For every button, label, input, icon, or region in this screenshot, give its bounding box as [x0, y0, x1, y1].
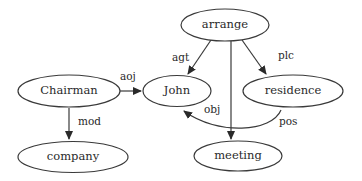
- edge-label-obj: obj: [204, 103, 220, 115]
- edge-label-agt: agt: [172, 51, 190, 63]
- node-chairman: Chairman: [18, 75, 120, 107]
- node-company: company: [18, 142, 128, 173]
- edge-plc-arrow: [242, 40, 266, 74]
- edge-label-plc: plc: [278, 49, 294, 61]
- edge-label-pos: pos: [279, 115, 297, 127]
- node-meeting-label: meeting: [214, 148, 262, 162]
- edge-label-mod: mod: [78, 115, 101, 127]
- node-arrange-label: arrange: [202, 17, 248, 31]
- node-meeting: meeting: [194, 141, 282, 171]
- node-residence: residence: [243, 75, 343, 107]
- node-john: John: [143, 76, 211, 107]
- edge-agt-arrow: [188, 40, 211, 74]
- edge-label-aoj: aoj: [120, 70, 136, 82]
- node-company-label: company: [47, 149, 100, 163]
- node-residence-label: residence: [265, 83, 322, 97]
- semantic-network-diagram: agt plc aoj mod obj pos arrange Chairman…: [0, 0, 362, 181]
- edge-pos-arrow: [184, 110, 281, 128]
- node-chairman-label: Chairman: [40, 83, 98, 97]
- node-john-label: John: [163, 83, 191, 97]
- node-arrange: arrange: [181, 9, 269, 41]
